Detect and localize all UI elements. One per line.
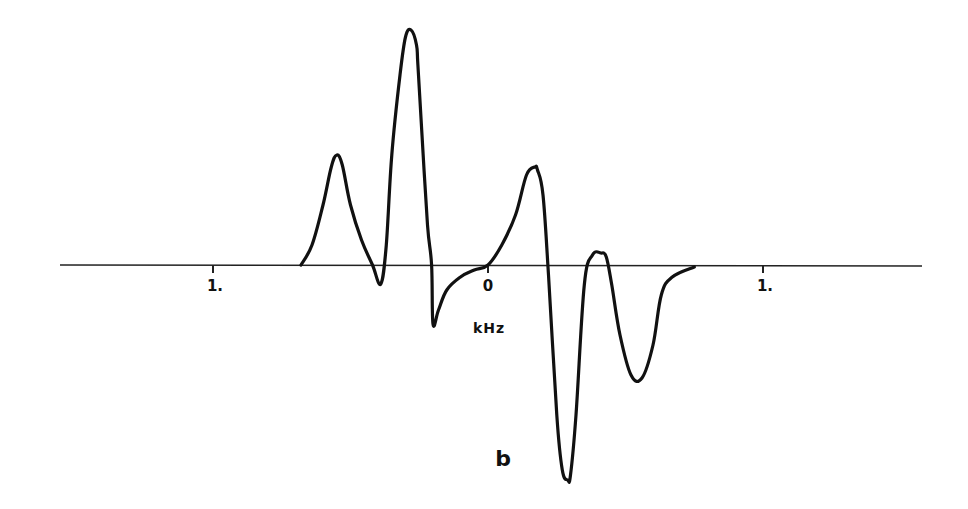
series-line-spectrum <box>301 29 694 482</box>
panel-label: b <box>495 446 511 471</box>
x-tick-label: 0 <box>483 277 493 295</box>
x-axis-line <box>60 265 922 266</box>
x-tick-label: 1. <box>207 277 223 295</box>
x-tick-label: 1. <box>757 277 773 295</box>
x-axis-label: kHz <box>473 320 505 336</box>
chart: 1.01. kHz b <box>0 0 968 509</box>
